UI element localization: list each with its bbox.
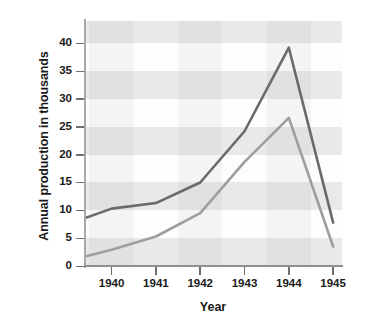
y-axis-line	[84, 19, 86, 268]
x-axis-tick	[111, 267, 113, 275]
y-axis-tick-label: 5	[42, 232, 72, 244]
y-axis-tick	[76, 266, 84, 268]
y-axis-tick	[76, 210, 84, 212]
y-axis-tick	[76, 71, 84, 73]
line-chart-figure: Annual production in thousands 051015202…	[0, 0, 366, 335]
y-axis-tick	[76, 182, 84, 184]
x-axis-line	[84, 265, 343, 267]
y-axis-tick	[76, 238, 84, 240]
y-axis-tick-label: 40	[42, 37, 72, 49]
x-axis-tick	[244, 267, 246, 275]
x-axis-title: Year	[84, 300, 342, 314]
x-axis-tick-label: 1942	[178, 278, 222, 290]
x-axis-tick-label: 1941	[134, 278, 178, 290]
x-axis-tick	[155, 267, 157, 275]
y-axis-tick	[76, 98, 84, 100]
y-axis-tick-label: 35	[42, 65, 72, 77]
y-axis-tick-label: 20	[42, 149, 72, 161]
x-axis-tick-label: 1945	[311, 278, 355, 290]
x-axis-tick-label: 1943	[223, 278, 267, 290]
x-axis-tick-label: 1940	[90, 278, 134, 290]
series-line-lower	[85, 118, 333, 257]
y-axis-tick-label: 25	[42, 121, 72, 133]
y-axis-tick	[76, 154, 84, 156]
y-axis-tick-label: 10	[42, 204, 72, 216]
x-axis-tick	[332, 267, 334, 275]
series-lines	[85, 21, 342, 266]
y-axis-tick	[76, 126, 84, 128]
x-axis-tick	[199, 267, 201, 275]
y-axis-tick-label: 0	[42, 260, 72, 272]
y-axis-tick	[76, 43, 84, 45]
x-axis-tick-label: 1944	[267, 278, 311, 290]
x-axis-tick	[288, 267, 290, 275]
y-axis-tick-label: 30	[42, 93, 72, 105]
y-axis-tick-label: 15	[42, 176, 72, 188]
plot-area	[85, 21, 342, 266]
